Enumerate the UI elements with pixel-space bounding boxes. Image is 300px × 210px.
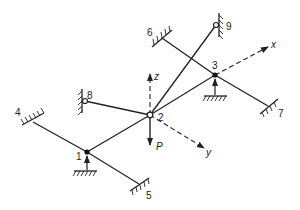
fixed-support-icon xyxy=(152,26,172,47)
node-label-8: 8 xyxy=(87,90,93,101)
member-3-7 xyxy=(215,75,268,106)
node-label-4: 4 xyxy=(15,107,21,118)
x-axis xyxy=(215,47,268,75)
coordinate-axes: z x y xyxy=(150,39,277,158)
pinned-wall-support-icon xyxy=(214,13,224,39)
fixed-support-icon xyxy=(21,108,44,125)
member-2-3 xyxy=(150,75,215,115)
member-6-3 xyxy=(162,38,215,75)
node-label-1: 1 xyxy=(76,151,82,162)
node-label-7: 7 xyxy=(278,108,284,119)
node-label-5: 5 xyxy=(146,190,152,201)
load-arrow: P xyxy=(150,118,163,152)
joint-1 xyxy=(84,149,89,154)
roller-support-icon xyxy=(203,79,227,101)
y-axis-label: y xyxy=(205,147,212,158)
joint-2 xyxy=(147,112,153,118)
load-label: P xyxy=(156,141,163,152)
member-1-2 xyxy=(87,115,150,152)
member-1-5 xyxy=(87,152,139,184)
member-2-8 xyxy=(85,101,150,115)
node-label-3: 3 xyxy=(212,60,218,71)
member-4-1 xyxy=(33,122,87,152)
node-label-9: 9 xyxy=(226,21,232,32)
member-2-9 xyxy=(150,25,216,115)
x-axis-label: x xyxy=(270,39,277,50)
z-axis-label: z xyxy=(153,71,159,82)
space-frame-diagram: z x y P xyxy=(0,0,300,210)
joint-3 xyxy=(212,72,217,77)
node-label-2: 2 xyxy=(158,112,164,123)
node-label-6: 6 xyxy=(147,27,153,38)
fixed-support-icon xyxy=(260,99,278,117)
